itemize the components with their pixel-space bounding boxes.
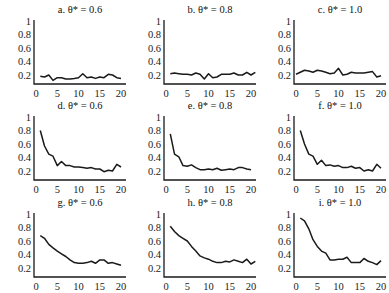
- y-tick-label: 0.8: [18, 29, 31, 40]
- data-line: [40, 131, 121, 172]
- panel-c: c. θ* = 1.010.80.60.40.205101520: [260, 0, 389, 97]
- y-tick-label: 0.6: [18, 43, 31, 54]
- y-tick-label: 0.2: [148, 263, 161, 274]
- y-tick-label: 0.8: [278, 29, 291, 40]
- y-tick-label: 0.4: [18, 152, 32, 163]
- y-tick-label: 1: [26, 112, 31, 123]
- line-plot: 10.80.60.40.205101520: [0, 193, 130, 290]
- line-plot: 10.80.60.40.205101520: [260, 193, 389, 290]
- y-tick-label: 0.6: [18, 139, 31, 150]
- y-tick-label: 0.8: [278, 222, 291, 233]
- y-tick-label: 1: [156, 112, 161, 123]
- x-tick-label: 5: [315, 281, 320, 292]
- y-tick-label: 0.2: [148, 166, 161, 177]
- panel-g: g. θ* = 0.610.80.60.40.205101520: [0, 193, 130, 290]
- y-tick-label: 0.8: [18, 222, 31, 233]
- axes: [294, 213, 386, 277]
- y-tick-label: 1: [156, 16, 161, 27]
- y-tick-label: 0.6: [18, 236, 31, 247]
- x-tick-label: 10: [333, 281, 344, 292]
- y-tick-label: 0.6: [148, 236, 161, 247]
- data-line: [300, 218, 381, 265]
- y-tick-label: 0.8: [18, 125, 31, 136]
- panel-h: h. θ* = 0.810.80.60.40.205101520: [130, 193, 260, 290]
- y-tick-label: 0.2: [278, 263, 291, 274]
- line-plot: 10.80.60.40.205101520: [130, 96, 260, 193]
- y-tick-label: 0.2: [148, 70, 161, 81]
- x-tick-label: 15: [95, 281, 106, 292]
- y-tick-label: 0.4: [148, 56, 162, 67]
- y-tick-label: 1: [26, 209, 31, 220]
- axes: [294, 20, 386, 84]
- x-tick-label: 5: [185, 281, 190, 292]
- panel-d: d. θ* = 0.610.80.60.40.205101520: [0, 96, 130, 193]
- y-tick-label: 0.4: [18, 56, 32, 67]
- y-tick-label: 1: [286, 209, 291, 220]
- data-line: [300, 131, 381, 172]
- y-tick-label: 0.6: [278, 236, 291, 247]
- y-tick-label: 0.8: [148, 29, 161, 40]
- data-line: [296, 68, 381, 77]
- line-plot: 10.80.60.40.205101520: [0, 0, 130, 97]
- y-tick-label: 0.2: [18, 70, 31, 81]
- x-tick-label: 20: [246, 281, 257, 292]
- axes: [164, 116, 256, 180]
- data-line: [40, 74, 121, 81]
- y-tick-label: 0.6: [278, 139, 291, 150]
- x-tick-label: 0: [163, 281, 168, 292]
- line-plot: 10.80.60.40.205101520: [260, 96, 389, 193]
- panel-f: f. θ* = 1.010.80.60.40.205101520: [260, 96, 389, 193]
- data-line: [170, 134, 251, 170]
- data-line: [40, 236, 121, 266]
- panel-i: i. θ* = 1.010.80.60.40.205101520: [260, 193, 389, 290]
- x-tick-label: 10: [73, 281, 84, 292]
- y-tick-label: 0.4: [278, 152, 292, 163]
- line-plot: 10.80.60.40.205101520: [130, 193, 260, 290]
- panel-a: a. θ* = 0.610.80.60.40.205101520: [0, 0, 130, 97]
- y-tick-label: 1: [26, 16, 31, 27]
- data-line: [170, 72, 255, 79]
- x-tick-label: 15: [225, 281, 236, 292]
- panel-b: b. θ* = 0.810.80.60.40.205101520: [130, 0, 260, 97]
- y-tick-label: 0.2: [18, 166, 31, 177]
- line-plot: 10.80.60.40.205101520: [130, 0, 260, 97]
- x-tick-label: 5: [55, 281, 60, 292]
- y-tick-label: 0.6: [278, 43, 291, 54]
- y-tick-label: 1: [286, 112, 291, 123]
- x-tick-label: 20: [376, 281, 387, 292]
- x-tick-label: 20: [116, 281, 127, 292]
- y-tick-label: 0.6: [148, 139, 161, 150]
- axes: [34, 213, 126, 277]
- x-tick-label: 10: [203, 281, 214, 292]
- y-tick-label: 0.4: [148, 152, 162, 163]
- y-tick-label: 0.4: [278, 249, 292, 260]
- y-tick-label: 0.2: [278, 166, 291, 177]
- y-tick-label: 1: [156, 209, 161, 220]
- y-tick-label: 0.2: [278, 70, 291, 81]
- x-tick-label: 15: [355, 281, 366, 292]
- line-plot: 10.80.60.40.205101520: [260, 0, 389, 97]
- panel-e: e. θ* = 0.810.80.60.40.205101520: [130, 96, 260, 193]
- y-tick-label: 1: [286, 16, 291, 27]
- x-tick-label: 0: [33, 281, 38, 292]
- data-line: [170, 226, 255, 264]
- axes: [164, 213, 256, 277]
- x-tick-label: 0: [293, 281, 298, 292]
- y-tick-label: 0.8: [148, 222, 161, 233]
- y-tick-label: 0.4: [18, 249, 32, 260]
- y-tick-label: 0.6: [148, 43, 161, 54]
- y-tick-label: 0.8: [278, 125, 291, 136]
- y-tick-label: 0.4: [148, 249, 162, 260]
- y-tick-label: 0.2: [18, 263, 31, 274]
- y-tick-label: 0.8: [148, 125, 161, 136]
- y-tick-label: 0.4: [278, 56, 292, 67]
- line-plot: 10.80.60.40.205101520: [0, 96, 130, 193]
